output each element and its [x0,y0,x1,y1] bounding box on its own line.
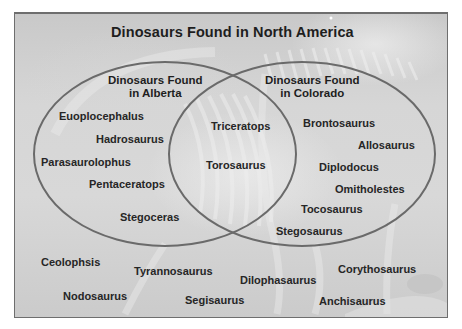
dinosaur-label: Stegoceras [120,212,179,223]
dinosaur-label: Stegosaurus [276,226,343,237]
dinosaur-label: Tocosaurus [301,204,363,215]
dinosaur-label: Pentaceratops [89,179,165,190]
alberta-set-title-line2: in Alberta [108,87,203,100]
dinosaur-label: Allosaurus [358,140,415,151]
colorado-set-title-line2: in Colorado [265,87,360,100]
dinosaur-label: Segisaurus [185,295,244,306]
colorado-set-title: Dinosaurs Found in Colorado [265,74,360,100]
alberta-set-title-line1: Dinosaurs Found [108,74,203,87]
dinosaur-label: Anchisaurus [319,296,386,307]
dinosaur-label: Brontosaurus [303,118,375,129]
dinosaur-label: Nodosaurus [63,291,127,302]
dinosaur-label: Corythosaurus [338,264,416,275]
venn-diagram-frame: Dinosaurs Found in North America Dinosau… [14,12,448,318]
dinosaur-label: Euoplocephalus [59,111,144,122]
dinosaur-label: Diplodocus [319,162,379,173]
dinosaur-label: Dilophasaurus [240,275,316,286]
dinosaur-label: Tyrannosaurus [134,266,213,277]
dinosaur-label: Parasaurolophus [41,157,131,168]
colorado-set-title-line1: Dinosaurs Found [265,74,360,87]
dinosaur-label: Torosaurus [206,160,266,171]
dinosaur-label: Omitholestes [335,184,405,195]
dinosaur-label: Hadrosaurus [96,134,164,145]
dinosaur-label: Triceratops [211,121,270,132]
alberta-set-title: Dinosaurs Found in Alberta [108,74,203,100]
diagram-title: Dinosaurs Found in North America [111,25,354,40]
dinosaur-label: Ceolophsis [41,257,100,268]
